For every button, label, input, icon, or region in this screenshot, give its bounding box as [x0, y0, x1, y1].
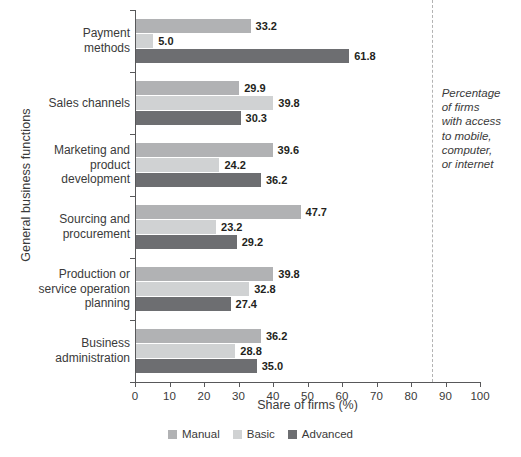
legend-swatch-icon [168, 430, 177, 439]
x-axis-tick-mark [170, 382, 171, 387]
x-axis-tick-mark [377, 382, 378, 387]
bar-value-label: 32.8 [254, 282, 275, 296]
bar-manual [136, 205, 301, 219]
bar-value-label: 36.2 [266, 173, 287, 187]
bar-manual [136, 81, 239, 95]
x-axis-tick-mark [342, 382, 343, 387]
bar-value-label: 39.8 [278, 96, 299, 110]
bar-value-label: 5.0 [158, 34, 173, 48]
bar-value-label: 28.8 [240, 344, 261, 358]
bar-manual [136, 19, 251, 33]
category-axis-label: Businessadministration [18, 336, 130, 365]
bar-value-label: 23.2 [221, 220, 242, 234]
y-axis-tick-mark [130, 72, 135, 73]
x-axis-tick-mark [273, 382, 274, 387]
bar-basic [136, 220, 216, 234]
y-axis-tick-mark [130, 258, 135, 259]
bar-value-label: 27.4 [236, 297, 257, 311]
reference-line [432, 0, 433, 382]
y-axis-tick-mark [130, 10, 135, 11]
legend-label: Advanced [302, 428, 353, 440]
legend-item-manual[interactable]: Manual [168, 428, 220, 440]
bar-manual [136, 329, 261, 343]
bar-value-label: 61.8 [354, 49, 375, 63]
bar-advanced [136, 111, 241, 125]
x-axis-tick-mark [135, 382, 136, 387]
bar-advanced [136, 297, 231, 311]
reference-line-annotation: Percentageof firmswith accessto mobile,c… [442, 86, 520, 171]
bar-basic [136, 96, 273, 110]
chart-legend: ManualBasicAdvanced [0, 428, 521, 440]
bar-value-label: 36.2 [266, 329, 287, 343]
bar-value-label: 35.0 [262, 359, 283, 373]
legend-swatch-icon [288, 430, 297, 439]
grouped-bar-chart: General business functions Paymentmethod… [0, 0, 521, 457]
x-axis-tick-mark [480, 382, 481, 387]
bar-basic [136, 344, 235, 358]
x-axis-tick-mark [239, 382, 240, 387]
bar-advanced [136, 173, 261, 187]
x-axis-tick-mark [446, 382, 447, 387]
x-axis-tick-mark [411, 382, 412, 387]
category-axis-label: Paymentmethods [18, 26, 130, 55]
bar-basic [136, 158, 219, 172]
legend-item-basic[interactable]: Basic [233, 428, 275, 440]
bar-advanced [136, 235, 237, 249]
bar-advanced [136, 359, 257, 373]
x-axis-title: Share of firms (%) [135, 398, 480, 412]
legend-item-advanced[interactable]: Advanced [288, 428, 353, 440]
bar-value-label: 39.8 [278, 267, 299, 281]
legend-swatch-icon [233, 430, 242, 439]
bar-basic [136, 34, 153, 48]
bar-value-label: 39.6 [278, 143, 299, 157]
bar-value-label: 30.3 [246, 111, 267, 125]
bar-value-label: 29.9 [244, 81, 265, 95]
bar-basic [136, 282, 249, 296]
y-axis-line [135, 10, 136, 382]
bar-value-label: 47.7 [306, 205, 327, 219]
plot-area: 0102030405060708090100 33.25.061.829.939… [135, 10, 480, 382]
x-axis-tick-mark [308, 382, 309, 387]
bar-manual [136, 143, 273, 157]
bar-advanced [136, 49, 349, 63]
bar-value-label: 29.2 [242, 235, 263, 249]
category-axis-label: Sales channels [18, 96, 130, 111]
legend-label: Basic [247, 428, 275, 440]
category-axis-labels: PaymentmethodsSales channelsMarketing an… [18, 10, 130, 382]
category-axis-label: Sourcing andprocurement [18, 212, 130, 241]
category-axis-label: Marketing andproductdevelopment [18, 143, 130, 187]
y-axis-tick-mark [130, 196, 135, 197]
y-axis-tick-mark [130, 320, 135, 321]
y-axis-tick-mark [130, 134, 135, 135]
bar-value-label: 33.2 [256, 19, 277, 33]
bar-value-label: 24.2 [224, 158, 245, 172]
bar-manual [136, 267, 273, 281]
category-axis-label: Production orservice operationplanning [18, 267, 130, 311]
legend-label: Manual [182, 428, 220, 440]
x-axis-tick-mark [204, 382, 205, 387]
